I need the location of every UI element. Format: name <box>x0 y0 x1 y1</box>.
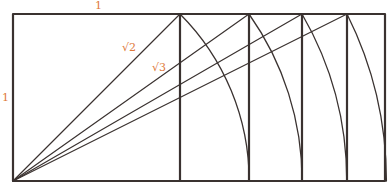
arc-sqrt3 <box>249 14 302 181</box>
outer-rectangle <box>13 14 385 181</box>
diagonal-sqrt2 <box>13 14 249 181</box>
sqrt-rectangle-diagram <box>0 0 392 188</box>
diagonal-sqrt3 <box>13 14 302 181</box>
arc-sqrt5 <box>347 14 386 181</box>
arc-sqrt4 <box>302 14 347 181</box>
label-diagonal-sqrt2: √2 <box>122 42 136 53</box>
label-top-side-1: 1 <box>95 0 102 11</box>
label-left-side-1: 1 <box>2 92 9 103</box>
label-diagonal-sqrt3: √3 <box>152 62 166 73</box>
diagonal-sqrt1 <box>13 14 180 181</box>
